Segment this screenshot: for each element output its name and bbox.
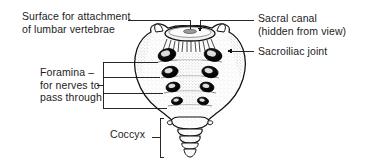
label-sacral-canal: Sacral canal (hidden from view)	[258, 12, 346, 37]
sacral-canal-opening	[184, 29, 197, 33]
label-lumbar-surface-line1: Surface for attachment	[22, 10, 130, 23]
label-foramina-line2: for nerves to	[40, 79, 102, 92]
label-lumbar-surface: Surface for attachment of lumbar vertebr…	[22, 10, 130, 35]
sacrum-anatomy-figure: Surface for attachment of lumbar vertebr…	[0, 0, 380, 165]
coccyx-segment-3	[180, 136, 200, 143]
label-coccyx-line1: Coccyx	[110, 128, 145, 141]
coccyx-segment-2	[178, 129, 202, 136]
coccyx-right-cornu	[208, 121, 213, 125]
label-coccyx: Coccyx	[110, 128, 145, 141]
label-lumbar-surface-line2: of lumbar vertebrae	[22, 23, 130, 36]
coccyx-left-cornu	[167, 121, 172, 125]
sacrum-bone	[135, 24, 246, 157]
label-sacroiliac-joint: Sacroiliac joint	[258, 45, 327, 58]
label-sacral-canal-line2: (hidden from view)	[258, 25, 346, 38]
label-sacroiliac-joint-line1: Sacroiliac joint	[258, 45, 327, 58]
coccyx-segment-4	[182, 143, 198, 149]
label-foramina-line1: Foramina –	[40, 66, 102, 79]
label-foramina-line3: pass through	[40, 91, 102, 104]
coccyx-bone	[167, 117, 213, 157]
coccyx-tip	[184, 149, 196, 157]
label-foramina: Foramina – for nerves to pass through	[40, 66, 102, 104]
label-sacral-canal-line1: Sacral canal	[258, 12, 346, 25]
coccyx-segment-1	[171, 117, 208, 129]
